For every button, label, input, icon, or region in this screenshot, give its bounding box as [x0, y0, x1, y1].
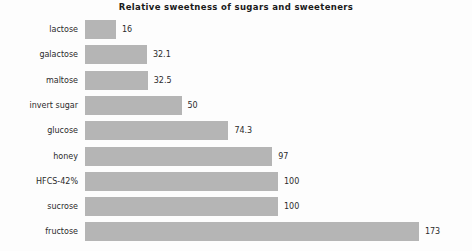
bar: [85, 222, 419, 241]
bar-value-label: 100: [284, 197, 299, 216]
bar-row: galactose32.1: [0, 45, 472, 64]
chart-title: Relative sweetness of sugars and sweeten…: [0, 2, 472, 12]
chart-container: Relative sweetness of sugars and sweeten…: [0, 0, 472, 251]
bar-row: HFCS-42%100: [0, 172, 472, 191]
bar: [85, 20, 116, 39]
bar-value-label: 50: [188, 96, 198, 115]
category-label: galactose: [0, 45, 78, 64]
bar: [85, 172, 278, 191]
bar: [85, 71, 148, 90]
bar-row: fructose173: [0, 222, 472, 241]
category-label: sucrose: [0, 197, 78, 216]
bar-value-label: 32.5: [154, 71, 172, 90]
bar: [85, 96, 182, 115]
bar: [85, 197, 278, 216]
category-label: invert sugar: [0, 96, 78, 115]
bar-row: lactose16: [0, 20, 472, 39]
category-label: glucose: [0, 121, 78, 140]
bar-row: glucose74.3: [0, 121, 472, 140]
bar: [85, 45, 147, 64]
bar-row: sucrose100: [0, 197, 472, 216]
bar-value-label: 16: [122, 20, 132, 39]
bar-value-label: 173: [425, 222, 440, 241]
category-label: honey: [0, 147, 78, 166]
plot-area: lactose16galactose32.1maltose32.5invert …: [0, 20, 472, 251]
bar-row: honey97: [0, 147, 472, 166]
bar-row: maltose32.5: [0, 71, 472, 90]
category-label: HFCS-42%: [0, 172, 78, 191]
bar-value-label: 97: [278, 147, 288, 166]
bar: [85, 121, 228, 140]
category-label: maltose: [0, 71, 78, 90]
category-label: lactose: [0, 20, 78, 39]
bar-value-label: 74.3: [234, 121, 252, 140]
bar-row: invert sugar50: [0, 96, 472, 115]
bar-value-label: 32.1: [153, 45, 171, 64]
bar: [85, 147, 272, 166]
category-label: fructose: [0, 222, 78, 241]
bar-value-label: 100: [284, 172, 299, 191]
